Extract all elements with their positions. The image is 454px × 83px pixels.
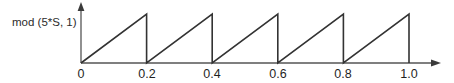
sawtooth-chart-figure: mod (5*S, 1) 0 0.2 0.4 0.6 0.8 1.0 — [0, 0, 454, 83]
x-tick-label-0: 0 — [78, 67, 85, 81]
y-axis-arrow-icon — [78, 2, 85, 11]
plot-canvas: mod (5*S, 1) 0 0.2 0.4 0.6 0.8 1.0 — [0, 0, 454, 83]
waveform-path — [81, 14, 409, 63]
x-tick-label-3: 0.6 — [269, 67, 286, 81]
sawtooth-series — [81, 14, 409, 63]
y-axis-label: mod (5*S, 1) — [12, 16, 77, 28]
x-tick-label-5: 1.0 — [400, 67, 417, 81]
x-tick-label-2: 0.4 — [203, 67, 220, 81]
x-axis-arrow-icon — [431, 59, 441, 66]
x-tick-label-4: 0.8 — [334, 67, 351, 81]
x-tick-label-1: 0.2 — [138, 67, 155, 81]
